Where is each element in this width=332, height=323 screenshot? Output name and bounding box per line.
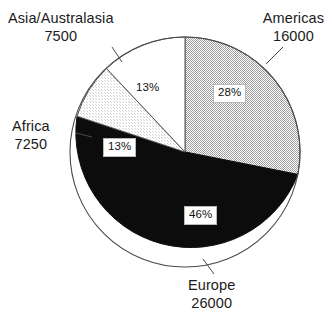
label-asia-australasia-value: 7500 [8,28,114,46]
percent-label-asia-australasia: 13% [133,80,162,96]
label-americas-value: 16000 [263,28,324,46]
leader-line-americas [266,47,283,64]
percent-label-africa: 13% [103,138,136,157]
label-europe-value: 26000 [188,295,235,313]
label-asia-australasia: Asia/Australasia 7500 [8,10,114,45]
pie-chart-figure: Asia/Australasia 7500 Americas 16000 Afr… [0,0,332,323]
label-africa-value: 7250 [12,136,50,154]
label-africa-name: Africa [12,118,50,136]
label-americas: Americas 16000 [263,10,324,45]
leader-line-europe [203,259,214,274]
label-africa: Africa 7250 [12,118,50,153]
percent-label-americas: 28% [213,84,246,103]
label-americas-name: Americas [263,10,324,28]
pie-slice-americas[interactable] [185,37,300,175]
label-europe-name: Europe [188,277,235,295]
pie-chart-graphic [0,0,332,323]
label-europe: Europe 26000 [188,277,235,312]
label-asia-australasia-name: Asia/Australasia [8,10,114,28]
percent-label-europe: 46% [184,206,217,225]
